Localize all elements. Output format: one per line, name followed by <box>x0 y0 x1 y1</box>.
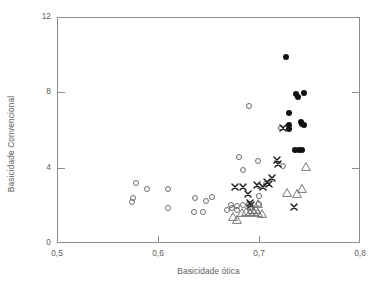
plot-area <box>57 17 360 243</box>
x-tick-mark <box>158 236 159 243</box>
data-point-open-circle <box>191 209 197 215</box>
data-point-cross <box>268 174 276 182</box>
data-point-filled-circle <box>299 147 305 153</box>
x-tick-label: 0,8 <box>345 248 375 258</box>
data-point-cross <box>274 160 282 168</box>
data-point-open-circle <box>129 199 135 205</box>
x-tick-label: 0,7 <box>244 248 274 258</box>
data-point-cross <box>231 183 239 191</box>
data-point-open-circle <box>200 209 206 215</box>
data-point-filled-circle <box>295 94 301 100</box>
y-axis-title: Basicidade Convencional <box>0 0 22 288</box>
data-point-open-circle <box>209 194 215 200</box>
data-point-open-circle <box>246 103 252 109</box>
y-tick-label: 12 <box>29 11 51 21</box>
y-tick-mark <box>352 168 360 169</box>
data-point-open-circle <box>192 195 198 201</box>
data-point-cross <box>279 124 287 132</box>
data-point-filled-circle <box>283 54 289 60</box>
data-point-open-circle <box>165 186 171 192</box>
data-point-open-triangle <box>292 184 302 192</box>
data-point-filled-circle <box>286 110 292 116</box>
x-tick-label: 0,6 <box>143 248 173 258</box>
y-tick-label: 0 <box>29 237 51 247</box>
data-point-filled-circle <box>301 122 307 128</box>
data-point-filled-circle <box>301 90 307 96</box>
x-axis-title: Basicidade ótica <box>57 266 360 276</box>
data-point-open-triangle <box>277 188 287 196</box>
data-point-open-circle <box>255 158 261 164</box>
y-tick-label: 4 <box>29 162 51 172</box>
data-point-open-circle <box>240 167 246 173</box>
data-point-open-circle <box>144 186 150 192</box>
data-point-cross <box>290 203 298 211</box>
x-tick-label: 0,5 <box>42 248 72 258</box>
data-point-open-circle <box>165 205 171 211</box>
y-tick-mark <box>57 168 65 169</box>
data-point-open-triangle <box>296 162 306 170</box>
data-point-open-triangle <box>246 205 256 213</box>
data-point-open-circle <box>236 154 242 160</box>
x-tick-mark <box>259 236 260 243</box>
y-tick-label: 8 <box>29 86 51 96</box>
y-tick-mark <box>352 92 360 93</box>
data-point-open-circle <box>133 180 139 186</box>
data-point-cross <box>244 190 252 198</box>
scatter-chart: Basicidade Convencional Basicidade ótica… <box>0 0 379 288</box>
y-tick-mark <box>57 92 65 93</box>
